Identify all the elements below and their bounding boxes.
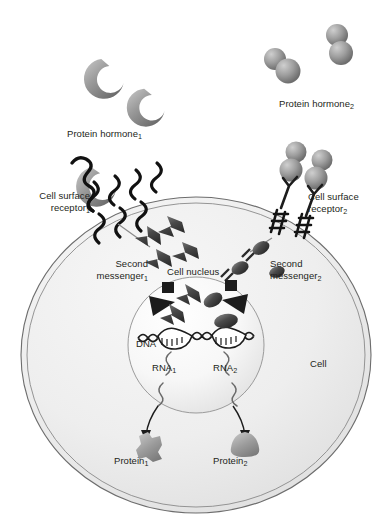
import-block-2 <box>225 280 237 291</box>
import-block-1 <box>162 282 174 293</box>
protein-2-label: Protein2 <box>213 455 248 467</box>
hormone-2-dimer-a <box>264 48 301 84</box>
hormone-2-bound-b <box>305 150 333 190</box>
hormone-2-dimer-b <box>326 24 353 65</box>
second-messenger-2-label: Secondmessenger2 <box>270 258 344 281</box>
protein-hormone-2-molecules <box>264 24 353 84</box>
second-messenger-1-label: Secondmessenger1 <box>78 258 148 281</box>
cell-label: Cell <box>310 358 327 370</box>
cell-nucleus-label: Cell nucleus <box>167 266 219 278</box>
cell-surface-receptor-1-label: Cell surfacereceptor1 <box>14 190 90 213</box>
hormone-1-crescent-b <box>125 87 166 129</box>
rna-2-label: RNA2 <box>213 362 237 374</box>
hormone-2-bound-a <box>280 142 307 182</box>
protein-1-label: Protein1 <box>114 455 149 467</box>
protein-hormone-2-label: Protein hormone2 <box>279 98 354 110</box>
protein-hormone-1-molecules <box>81 56 166 128</box>
rna-1-label: RNA1 <box>152 362 176 374</box>
dna-label: DNA <box>136 338 156 350</box>
protein-hormone-1-label: Protein hormone1 <box>67 128 142 140</box>
cell-surface-receptor-2-label: Cell surfacereceptor2 <box>308 191 388 214</box>
hormone-1-crescent-a <box>81 56 125 101</box>
